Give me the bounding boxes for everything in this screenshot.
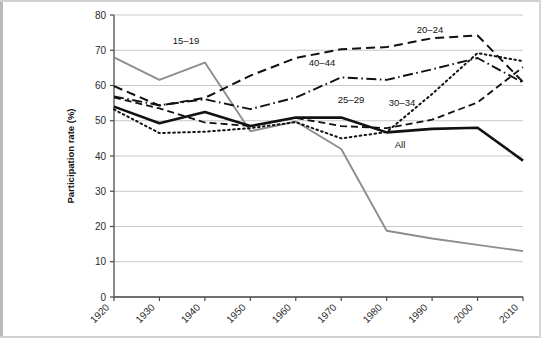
- line-chart: 01020304050607080 1920193019401950196019…: [0, 0, 541, 338]
- series-label-30-34: 30–34: [389, 97, 415, 108]
- x-tick-label-1950: 1950: [224, 301, 248, 325]
- y-tick-label-10: 10: [95, 256, 107, 267]
- y-tick-label-50: 50: [95, 115, 107, 126]
- y-tick-label-0: 0: [100, 292, 106, 303]
- x-tick-label-1940: 1940: [179, 301, 203, 325]
- x-tick-label-1990: 1990: [406, 301, 430, 325]
- y-tick-label-80: 80: [95, 10, 107, 21]
- x-tick-label-1970: 1970: [315, 301, 339, 325]
- y-tick-label-40: 40: [95, 151, 107, 162]
- y-tick-group: 01020304050607080: [95, 10, 114, 303]
- x-tick-group: 1920193019401950196019701980199020002010: [88, 297, 523, 325]
- series-line-All: [114, 107, 523, 161]
- y-tick-label-60: 60: [95, 80, 107, 91]
- y-tick-label-20: 20: [95, 221, 107, 232]
- x-tick-label-2010: 2010: [497, 301, 521, 325]
- x-tick-label-1920: 1920: [88, 301, 112, 325]
- x-tick-label-1980: 1980: [361, 301, 385, 325]
- y-axis-title: Participation rate (%): [65, 108, 76, 203]
- x-tick-label-1930: 1930: [133, 301, 157, 325]
- figure-canvas: 01020304050607080 1920193019401950196019…: [0, 0, 541, 338]
- series-label-20-24: 20–24: [417, 24, 443, 35]
- x-tick-label-2000: 2000: [451, 301, 475, 325]
- axis-title-group: Participation rate (%): [65, 108, 76, 203]
- y-tick-label-30: 30: [95, 186, 107, 197]
- series-line-15-19: [114, 57, 523, 251]
- series-label-40-44: 40–44: [309, 57, 335, 68]
- series-label-15-19: 15–19: [173, 35, 199, 46]
- series-label-all: All: [395, 139, 406, 150]
- x-tick-label-1960: 1960: [270, 301, 294, 325]
- series-label-25-29: 25–29: [338, 94, 364, 105]
- y-tick-label-70: 70: [95, 45, 107, 56]
